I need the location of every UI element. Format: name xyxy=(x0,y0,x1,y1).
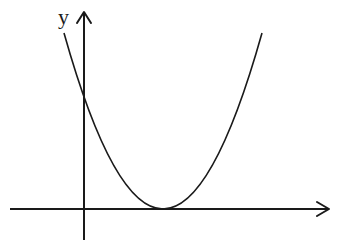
parabola-diagram: y xyxy=(0,0,339,242)
diagram-svg: y xyxy=(0,0,339,242)
y-axis-label: y xyxy=(58,4,69,29)
parabola-curve xyxy=(64,33,262,209)
